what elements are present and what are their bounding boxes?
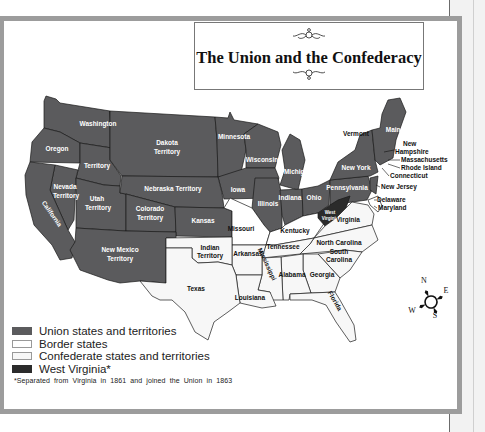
side-divider: [473, 0, 474, 432]
compass-w: W: [408, 306, 416, 315]
flourish-ornament-icon: [289, 27, 329, 41]
region-florida: [290, 292, 356, 342]
legend-swatch-border: [12, 340, 32, 348]
label-minnesota: Minnesota: [218, 133, 251, 140]
label-virginia: Virginia: [336, 216, 360, 224]
label-utah: Utah: [90, 195, 104, 202]
label-new-hampshire-2: Hampshire: [395, 148, 429, 156]
label-vermont: Vermont: [343, 130, 370, 137]
label-maryland: Maryland: [378, 204, 407, 212]
label-kentucky: Kentucky: [280, 227, 310, 235]
legend-label-confederate: Confederate states and territories: [39, 350, 210, 362]
label-territory: Territory: [84, 162, 111, 170]
compass-n: N: [421, 276, 427, 285]
label-georgia: Georgia: [310, 271, 335, 279]
label-louisiana: Louisiana: [235, 294, 266, 301]
label-colorado: Colorado: [136, 205, 165, 212]
label-alabama: Alabama: [278, 271, 305, 278]
legend-label-border: Border states: [39, 338, 107, 350]
label-west-virginia: West: [325, 210, 336, 215]
label-indian-territory: Indian: [200, 244, 219, 251]
compass-s: S: [433, 311, 437, 320]
label-new-mexico: New Mexico: [101, 246, 138, 253]
label-iowa: Iowa: [231, 186, 246, 193]
legend-item-west-virginia: West Virginia*: [12, 363, 210, 376]
compass-e: E: [444, 286, 449, 295]
map-title: The Union and the Confederacy: [195, 48, 423, 68]
label-dakota-territory: Territory: [154, 148, 181, 156]
label-washington: Washington: [80, 120, 117, 128]
label-ohio: Ohio: [307, 194, 322, 201]
label-new-hampshire: New: [403, 140, 417, 147]
label-oregon: Oregon: [45, 145, 68, 153]
map-legend: Union states and territories Border stat…: [12, 325, 210, 375]
label-nebraska-territory: Nebraska Territory: [144, 185, 202, 193]
legend-swatch-confederate: [12, 352, 32, 360]
legend-label-west-virginia: West Virginia*: [39, 363, 111, 375]
label-maine: Maine: [386, 126, 405, 133]
label-illinois: Illinois: [258, 200, 279, 207]
label-new-jersey: New Jersey: [381, 183, 417, 191]
legend-item-confederate: Confederate states and territories: [12, 350, 210, 363]
label-wisconsin: Wisconsin: [246, 156, 278, 163]
label-rhode-island: Rhode Island: [401, 164, 442, 171]
label-michigan: Michigan: [284, 168, 312, 176]
label-south-carolina-2: Carolina: [326, 256, 352, 263]
label-north-carolina: North Carolina: [316, 239, 362, 246]
label-kansas: Kansas: [191, 217, 215, 224]
map-title-box: The Union and the Confederacy: [194, 22, 424, 90]
legend-item-border: Border states: [12, 338, 210, 351]
legend-item-union: Union states and territories: [12, 325, 210, 338]
label-massachusetts: Massachusetts: [401, 156, 448, 163]
label-missouri: Missouri: [228, 225, 255, 232]
map-footnote: *Separated from Virginia in 1861 and joi…: [14, 377, 232, 384]
label-delaware: Delaware: [377, 196, 406, 203]
label-indian-territory-2: Territory: [197, 252, 224, 260]
label-new-york: New York: [341, 164, 370, 171]
region-new-york: [330, 130, 378, 180]
label-nevada-territory: Territory: [53, 192, 80, 200]
label-dakota: Dakota: [156, 139, 178, 146]
label-new-mexico-territory: Territory: [107, 255, 134, 263]
legend-label-union: Union states and territories: [39, 325, 176, 337]
region-michigan: [280, 134, 305, 190]
legend-swatch-west-virginia: [12, 365, 32, 373]
label-tennessee: Tennessee: [266, 243, 300, 250]
label-texas: Texas: [187, 285, 205, 292]
label-indiana: Indiana: [279, 194, 302, 201]
label-south-carolina: South: [330, 248, 348, 255]
flourish-ornament-icon: [289, 67, 329, 81]
label-pennsylvania: Pennsylvania: [326, 184, 368, 192]
label-nevada: Nevada: [53, 183, 77, 190]
label-connecticut: Connecticut: [390, 172, 428, 179]
label-colorado-territory: Territory: [137, 214, 164, 222]
label-utah-territory: Territory: [85, 204, 112, 212]
legend-swatch-union: [12, 327, 32, 335]
